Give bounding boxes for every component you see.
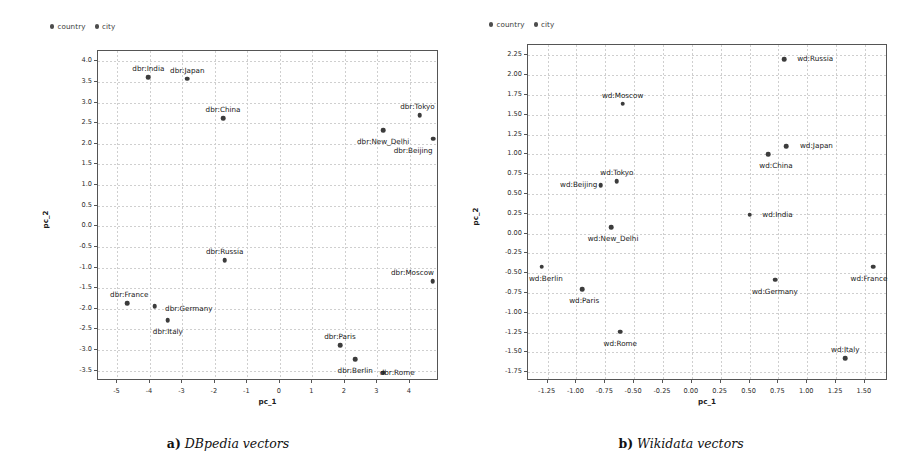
data-point-dbr-india[interactable]: [146, 75, 151, 80]
x-tick: [547, 380, 548, 383]
data-point-dbr-japan[interactable]: [185, 76, 190, 81]
data-point-wd-india[interactable]: [747, 212, 752, 217]
data-point-wd-berlin[interactable]: [540, 265, 545, 270]
point-label-dbr-berlin: dbr:Berlin: [338, 366, 373, 375]
data-point-dbr-italy[interactable]: [166, 318, 171, 323]
y-axis-title: pc_2: [41, 210, 50, 228]
point-label-dbr-japan: dbr:Japan: [170, 66, 204, 75]
x-tick: [720, 380, 721, 383]
data-point-dbr-moscow[interactable]: [430, 279, 435, 284]
data-point-wd-rome[interactable]: [618, 330, 623, 335]
data-point-wd-china[interactable]: [766, 152, 771, 157]
y-tick-label: 0.5: [66, 201, 92, 209]
x-tick: [691, 380, 692, 383]
panel-b-wikidata: countrycitywd:Russiawd:Japanwd:Chinawd:I…: [459, 0, 918, 476]
y-tick-label: 0.25: [496, 209, 522, 217]
data-point-wd-japan[interactable]: [784, 144, 789, 149]
data-point-wd-germany[interactable]: [773, 277, 778, 282]
y-tick: [524, 94, 527, 95]
data-point-dbr-france[interactable]: [125, 301, 130, 306]
point-label-wd-italy: wd:Italy: [831, 345, 859, 354]
y-tick-label: -0.5: [66, 242, 92, 250]
x-tick: [806, 380, 807, 383]
x-tick-label: 0.75: [770, 387, 785, 395]
y-axis-title: pc_2: [471, 207, 480, 225]
y-tick-label: -2.0: [66, 304, 92, 312]
y-tick-label: 1.50: [496, 110, 522, 118]
y-tick-label: 1.00: [496, 149, 522, 157]
legend-item-country[interactable]: country: [489, 20, 525, 29]
caption-text-b: Wikidata vectors: [633, 436, 743, 451]
legend-item-country[interactable]: country: [50, 22, 86, 31]
y-tick: [524, 252, 527, 253]
y-tick-label: 0.00: [496, 229, 522, 237]
data-point-wd-beijing[interactable]: [598, 183, 603, 188]
data-point-dbr-berlin[interactable]: [353, 357, 358, 362]
data-point-dbr-germany[interactable]: [153, 304, 158, 309]
caption-text-a: DBpedia vectors: [181, 436, 289, 451]
data-point-wd-tokyo[interactable]: [615, 179, 620, 184]
y-tick: [524, 312, 527, 313]
data-point-dbr-tokyo[interactable]: [417, 113, 422, 118]
x-axis-title: pc_1: [698, 397, 716, 406]
point-label-dbr-rome: dbr:Rome: [380, 368, 415, 377]
data-point-wd-france[interactable]: [871, 265, 876, 270]
data-point-dbr-beijing[interactable]: [431, 137, 436, 142]
point-label-wd-berlin: wd:Berlin: [529, 274, 563, 283]
data-point-dbr-paris[interactable]: [338, 343, 343, 348]
gridline-horizontal: [98, 123, 437, 124]
legend-marker-city-icon: [534, 22, 538, 26]
y-tick-label: 1.5: [66, 159, 92, 167]
y-tick: [524, 114, 527, 115]
x-tick-label: 0.00: [684, 387, 699, 395]
plot-area-a: dbr:Indiadbr:Japandbr:Chinadbr:Russiadbr…: [97, 50, 438, 380]
y-tick-label: 3.5: [66, 77, 92, 85]
x-tick-label: 0: [277, 387, 281, 395]
gridline-horizontal: [528, 253, 886, 254]
data-point-wd-russia[interactable]: [782, 57, 787, 62]
x-tick-label: 1.00: [799, 387, 814, 395]
data-point-dbr-new-delhi[interactable]: [381, 128, 386, 133]
x-tick: [181, 380, 182, 383]
y-tick: [94, 143, 97, 144]
y-tick-label: -1.75: [496, 367, 522, 375]
data-point-wd-italy[interactable]: [843, 356, 848, 361]
x-tick-label: 0.50: [741, 387, 756, 395]
data-point-wd-paris[interactable]: [580, 287, 585, 292]
gridline-horizontal: [98, 61, 437, 62]
caption-panel-b: b) Wikidata vectors: [618, 436, 743, 451]
x-axis-title: pc_1: [258, 397, 276, 406]
legend-item-city[interactable]: city: [95, 22, 116, 31]
point-label-wd-moscow: wd:Moscow: [602, 91, 643, 100]
x-tick-label: -0.50: [625, 387, 642, 395]
x-tick-label: -2: [211, 387, 218, 395]
panel-a-dbpedia: countrycitydbr:Indiadbr:Japandbr:Chinadb…: [0, 0, 459, 476]
x-tick-label: -5: [113, 387, 120, 395]
point-label-wd-tokyo: wd:Tokyo: [600, 168, 633, 177]
x-tick-label: 0.25: [712, 387, 727, 395]
x-tick: [777, 380, 778, 383]
caption-tag-b: b): [618, 436, 633, 451]
point-label-wd-france: wd:France: [851, 274, 888, 283]
data-point-dbr-china[interactable]: [221, 116, 226, 121]
caption-tag-a: a): [167, 436, 181, 451]
point-label-wd-beijing: wd:Beijing: [560, 180, 597, 189]
x-tick-label: 1.25: [828, 387, 843, 395]
x-tick: [214, 380, 215, 383]
x-tick: [633, 380, 634, 383]
gridline-horizontal: [98, 103, 437, 104]
y-tick-label: -1.5: [66, 283, 92, 291]
point-label-dbr-italy: dbr:Italy: [153, 327, 183, 336]
y-tick-label: 4.0: [66, 56, 92, 64]
x-tick-label: -4: [146, 387, 153, 395]
legend-item-city[interactable]: city: [534, 20, 555, 29]
data-point-wd-moscow[interactable]: [620, 101, 625, 106]
y-tick-label: 2.5: [66, 118, 92, 126]
y-tick-label: -1.00: [496, 308, 522, 316]
data-point-dbr-russia[interactable]: [222, 258, 227, 263]
gridline-horizontal: [528, 154, 886, 155]
data-point-wd-new-delhi[interactable]: [609, 225, 614, 230]
y-tick-label: -3.0: [66, 345, 92, 353]
point-label-wd-paris: wd:Paris: [569, 296, 599, 305]
x-tick-label: -3: [178, 387, 185, 395]
